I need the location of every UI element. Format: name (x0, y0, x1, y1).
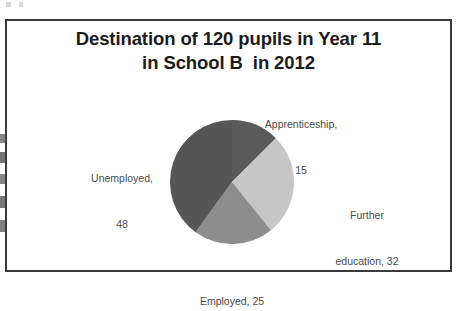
pie-label-apprenticeship-line-1: Apprenticeship, (235, 117, 367, 132)
pie-label-unemployed-line-2: 48 (63, 217, 181, 232)
plot-area: Apprenticeship, 15 Unemployed, 48 Furthe… (7, 21, 450, 270)
pie-chart-frame: Destination of 120 pupils in Year 11 in … (5, 19, 452, 272)
pie-label-employed: Employed, 25 (157, 264, 307, 311)
pie-label-unemployed-line-1: Unemployed, (63, 171, 181, 186)
pie-label-further-education: Further education, 32 (303, 178, 431, 300)
pie-label-further-education-line-1: Further (303, 208, 431, 223)
pie-label-employed-line-1: Employed, 25 (157, 294, 307, 309)
pie-label-unemployed: Unemployed, 48 (63, 141, 181, 263)
scan-artifact-top (6, 2, 32, 7)
pie-label-apprenticeship-line-2: 15 (235, 163, 367, 178)
pie-label-further-education-line-2: education, 32 (303, 254, 431, 269)
